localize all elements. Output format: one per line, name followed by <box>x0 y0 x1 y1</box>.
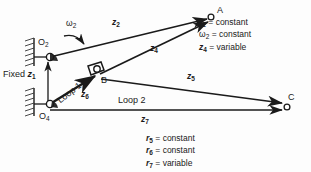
loop-label-loop2: Loop 2 <box>118 96 146 105</box>
vector-label-z6: z6 <box>81 90 89 99</box>
angular-velocity-label-omega2: ω2 <box>66 19 76 28</box>
note-row-r7: r7 = variable <box>146 157 195 169</box>
note-row-omega2: ω2 = constant <box>199 28 251 40</box>
point-label-O4: O4 <box>39 112 50 121</box>
vector-label-z2: z2 <box>112 18 120 27</box>
note-row-r5: r5 = constant <box>146 132 195 144</box>
ground-support-upper <box>25 38 34 66</box>
fixed-link-label: Fixed z1 <box>3 70 36 79</box>
vector-label-z4: z4 <box>150 44 158 53</box>
omega2-rotation-arrow <box>64 35 84 44</box>
point-label-O2: O2 <box>38 38 49 47</box>
ground-support-lower <box>25 88 34 116</box>
notes-top-right: r2 = constant ω2 = constant z4 = variabl… <box>199 16 251 53</box>
fixed-link-z1 <box>34 57 48 104</box>
vector-label-z5: z5 <box>187 72 195 81</box>
pivot-joint-O2 <box>46 53 58 61</box>
vector-label-z7: z7 <box>141 115 149 124</box>
note-row-r2: r2 = constant <box>199 16 251 28</box>
point-label-B: B <box>101 76 107 85</box>
point-label-A: A <box>217 6 223 15</box>
pivot-joint-O4 <box>46 100 58 108</box>
note-row-z4: z4 = variable <box>199 41 251 53</box>
note-row-r6: r6 = constant <box>146 144 195 156</box>
point-label-C: C <box>288 93 295 102</box>
notes-bottom-center: r5 = constant r6 = constant r7 = variabl… <box>146 132 195 169</box>
diagram-canvas: A B C O2 O4 z2 z4 z5 z6 z7 ω2 Fixed z1 L… <box>0 0 311 172</box>
point-C-joint <box>284 104 290 110</box>
